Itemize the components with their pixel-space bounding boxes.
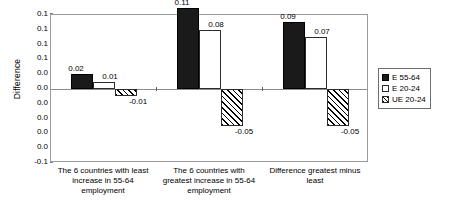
y-tick-label: 0.1 — [22, 40, 48, 48]
bar-value-label: -0.05 — [225, 127, 263, 136]
y-tick-label: 0.1 — [22, 25, 48, 33]
bar-value-label: -0.01 — [119, 97, 157, 106]
bar — [221, 89, 243, 126]
plot-area: 0.020.01-0.010.110.08-0.050.090.07-0.05 — [50, 14, 368, 162]
bar-value-label: -0.05 — [331, 127, 369, 136]
bar-value-label: 0.11 — [163, 0, 201, 7]
y-tick-label: 0.0 — [22, 99, 48, 107]
legend: E 55-64E 20-24UE 20-24 — [378, 68, 431, 109]
y-tick-label: 0.0 — [22, 69, 48, 77]
x-category-label: Difference greatest minus least — [262, 166, 368, 196]
legend-item[interactable]: E 55-64 — [382, 72, 426, 83]
y-axis-title: Difference — [12, 34, 22, 124]
y-tick-label: 0.0 — [22, 143, 48, 151]
y-tick-label: 0.1 — [22, 10, 48, 18]
bar-chart: Difference 0.10.10.10.10.00.00.00.00.00.… — [0, 0, 452, 211]
y-tick-label: 0.0 — [22, 84, 48, 92]
legend-label: UE 20-24 — [392, 95, 426, 104]
x-category-label: The 6 countries with least increase in 5… — [50, 166, 156, 196]
x-category-label: The 6 countries with greatest increase i… — [156, 166, 262, 196]
bar — [71, 74, 93, 89]
bar — [115, 89, 137, 96]
y-tick-label: 0.1 — [22, 54, 48, 62]
bar-value-label: 0.02 — [57, 64, 95, 73]
bar — [177, 8, 199, 89]
bar-value-label: 0.08 — [197, 20, 235, 29]
legend-swatch-icon — [382, 74, 389, 81]
bar-value-label: 0.07 — [303, 27, 341, 36]
legend-item[interactable]: UE 20-24 — [382, 94, 426, 105]
legend-label: E 20-24 — [392, 84, 420, 93]
bar-value-label: 0.09 — [269, 12, 307, 21]
bar — [93, 82, 115, 89]
y-tick-label: 0.0 — [22, 128, 48, 136]
legend-item[interactable]: E 20-24 — [382, 83, 426, 94]
bar — [283, 22, 305, 89]
y-tick-label: 0.0 — [22, 114, 48, 122]
legend-swatch-icon — [382, 85, 389, 92]
bar-value-label: 0.01 — [91, 72, 129, 81]
legend-swatch-icon — [382, 96, 389, 103]
bar — [305, 37, 327, 89]
bars-layer: 0.020.01-0.010.110.08-0.050.090.07-0.05 — [51, 15, 367, 161]
y-axis-tick-labels: 0.10.10.10.10.00.00.00.00.00.0-0.1 — [22, 14, 48, 162]
y-tick-label: -0.1 — [22, 158, 48, 166]
legend-label: E 55-64 — [392, 73, 420, 82]
bar — [327, 89, 349, 126]
x-axis-category-labels: The 6 countries with least increase in 5… — [50, 166, 368, 196]
bar — [199, 30, 221, 89]
